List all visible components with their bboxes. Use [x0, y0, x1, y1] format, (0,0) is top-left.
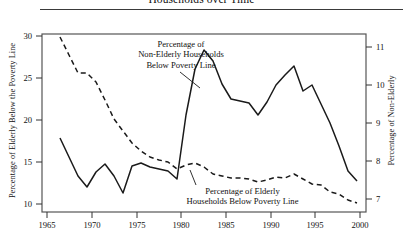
right-tick-label-7: 7 — [376, 194, 398, 204]
right-tick-label-10: 10 — [376, 80, 398, 90]
x-tick-label-2000: 2000 — [343, 220, 377, 230]
annotation-nonelderly-line2: Non-Elderly Households — [101, 49, 261, 59]
x-tick-label-1995: 1995 — [298, 220, 332, 230]
x-tick-label-1975: 1975 — [120, 220, 154, 230]
annotation-elderly-line1: Percentage of Elderly — [155, 186, 330, 196]
right-tick-label-8: 8 — [376, 156, 398, 166]
annotation-elderly-line2: Households Below Poverty Line — [155, 196, 330, 206]
series-nonelderly-line — [60, 50, 357, 193]
annotation-nonelderly: Percentage of Non-Elderly Households Bel… — [101, 39, 261, 70]
left-tick-label-30: 30 — [10, 31, 32, 41]
x-tick-label-1990: 1990 — [254, 220, 288, 230]
annotation-nonelderly-line3: Below Poverty Line — [101, 60, 261, 70]
x-axis-ticks — [47, 212, 360, 218]
left-tick-label-15: 15 — [10, 157, 32, 167]
x-tick-label-1970: 1970 — [75, 220, 109, 230]
left-tick-label-20: 20 — [10, 115, 32, 125]
leader-line-nonelderly — [180, 72, 200, 88]
left-tick-label-25: 25 — [10, 73, 32, 83]
right-tick-label-9: 9 — [376, 118, 398, 128]
x-tick-label-1980: 1980 — [164, 220, 198, 230]
right-axis-ticks — [366, 47, 372, 199]
left-axis-ticks — [36, 36, 42, 204]
right-tick-label-11: 11 — [376, 42, 398, 52]
annotation-elderly: Percentage of Elderly Households Below P… — [155, 186, 330, 207]
x-tick-label-1985: 1985 — [209, 220, 243, 230]
figure-container: Households over Time — [0, 0, 403, 240]
x-tick-label-1965: 1965 — [30, 220, 64, 230]
leader-line-elderly — [190, 170, 196, 185]
annotation-nonelderly-line1: Percentage of — [101, 39, 261, 49]
left-tick-label-10: 10 — [10, 199, 32, 209]
